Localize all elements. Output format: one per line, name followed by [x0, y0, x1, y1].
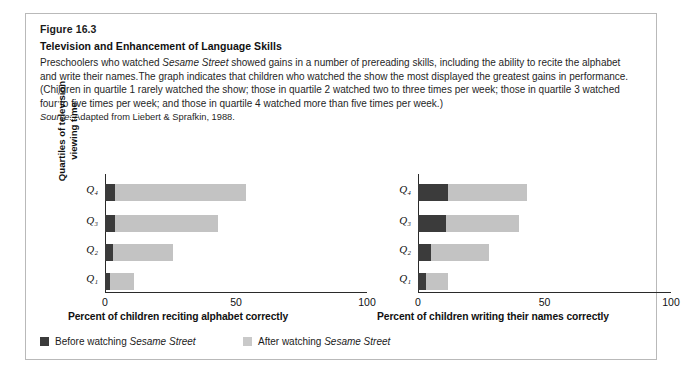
legend-label-before-prefix: Before watching: [55, 336, 130, 347]
x-axis-line: [105, 292, 367, 293]
bar-row: Q₂: [418, 244, 489, 261]
caption-run: Sesame Street: [162, 57, 228, 68]
y-tick-label: Q₂: [86, 243, 98, 255]
legend-label-after-italic: Sesame Street: [324, 336, 390, 347]
bar-segment-after: [115, 184, 246, 201]
legend-swatch-before-icon: [40, 337, 49, 346]
bar-row: Q₄: [418, 184, 527, 201]
legend-label-after-prefix: After watching: [258, 336, 324, 347]
figure-box: Figure 16.3 Television and Enhancement o…: [25, 13, 657, 360]
bar-segment-after: [446, 215, 519, 232]
legend-swatch-after-icon: [243, 337, 252, 346]
caption-run: Preschoolers who watched: [40, 57, 162, 68]
x-tick-label: 100: [662, 296, 680, 308]
legend-item-before: Before watching Sesame Street: [40, 336, 196, 347]
plot-area-right: Q₄Q₃Q₂Q₁ 050100: [418, 174, 671, 292]
x-tick-label: 50: [230, 296, 242, 308]
bar-row: Q₁: [418, 273, 448, 290]
bar-segment-before: [418, 215, 446, 232]
legend-item-after: After watching Sesame Street: [243, 336, 390, 347]
y-tick-label: Q₃: [86, 214, 98, 226]
y-tick-label: Q₃: [399, 214, 411, 226]
y-tick-label: Q₁: [399, 272, 411, 284]
plot-area-left: Q₄Q₃Q₂Q₁ 050100: [105, 174, 367, 292]
x-tick-label: 50: [539, 296, 551, 308]
bar-segment-before: [105, 244, 113, 261]
x-axis-line: [418, 292, 671, 293]
y-tick-label: Q₄: [399, 183, 411, 195]
x-axis-title-right: Percent of children writing their names …: [358, 311, 628, 322]
chart-reciting-alphabet: Quartiles of television viewing time Q₄Q…: [40, 174, 380, 324]
bar-segment-before: [105, 184, 115, 201]
y-axis-label: Quartiles of television viewing time: [56, 76, 80, 186]
bar-segment-after: [431, 244, 489, 261]
figure-number: Figure 16.3: [40, 23, 640, 35]
bar-segment-before: [105, 215, 115, 232]
figure-header: Figure 16.3 Television and Enhancement o…: [40, 23, 640, 122]
bar-segment-before: [418, 244, 431, 261]
bar-segment-after: [426, 273, 449, 290]
bar-segment-before: [418, 273, 426, 290]
bar-segment-after: [113, 244, 173, 261]
x-tick-label: 100: [358, 296, 376, 308]
x-tick-label: 0: [415, 296, 421, 308]
bar-row: Q₁: [105, 273, 134, 290]
source-text: Adapted from Liebert & Sprafkin, 1988.: [72, 112, 235, 122]
figure-caption: Preschoolers who watched Sesame Street s…: [40, 56, 632, 110]
figure-title: Television and Enhancement of Language S…: [40, 40, 640, 52]
bar-segment-before: [418, 184, 448, 201]
x-tick-label: 0: [102, 296, 108, 308]
bar-row: Q₄: [105, 184, 246, 201]
bar-segment-after: [110, 273, 134, 290]
bar-segment-after: [448, 184, 526, 201]
figure-source: Source: Adapted from Liebert & Sprafkin,…: [40, 112, 640, 122]
bar-segment-after: [115, 215, 217, 232]
legend-label-before-italic: Sesame Street: [130, 336, 196, 347]
bar-row: Q₂: [105, 244, 173, 261]
bar-row: Q₃: [105, 215, 218, 232]
y-tick-label: Q₂: [399, 243, 411, 255]
x-axis-title-left: Percent of children reciting alphabet co…: [8, 311, 348, 322]
y-tick-label: Q₄: [86, 183, 98, 195]
bar-row: Q₃: [418, 215, 519, 232]
y-tick-label: Q₁: [86, 272, 98, 284]
chart-writing-names: Q₄Q₃Q₂Q₁ 050100 Percent of children writ…: [378, 174, 648, 324]
